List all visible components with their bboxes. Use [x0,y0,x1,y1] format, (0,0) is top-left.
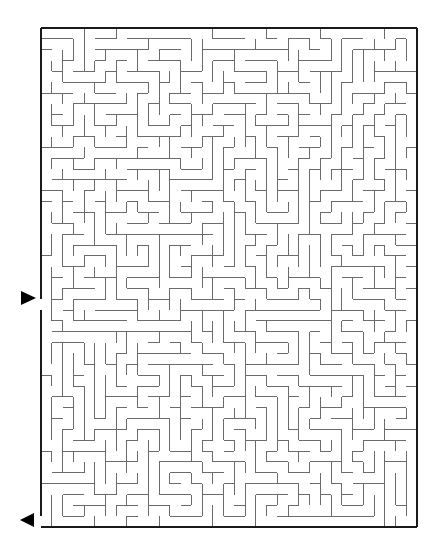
entrance-arrow-icon [21,291,36,305]
maze-board [0,0,437,547]
exit-arrow-icon [20,513,34,527]
maze-walls [41,28,417,527]
